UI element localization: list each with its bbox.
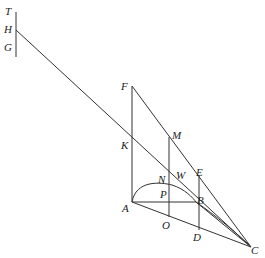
line-HC: [16, 30, 251, 247]
diagram-lines: [0, 0, 265, 258]
line-BC: [196, 202, 251, 247]
label-C: C: [251, 245, 258, 256]
line-FC: [132, 86, 251, 247]
label-D: D: [193, 232, 201, 243]
label-W: W: [176, 170, 185, 181]
label-H: H: [4, 24, 12, 35]
label-K: K: [121, 140, 128, 151]
label-F: F: [121, 81, 128, 92]
label-M: M: [172, 130, 181, 141]
label-B: B: [197, 195, 204, 206]
label-T: T: [5, 6, 11, 17]
label-O: O: [162, 220, 170, 231]
label-E: E: [196, 167, 203, 178]
label-P: P: [160, 189, 167, 200]
label-N: N: [158, 174, 165, 185]
line-AC: [132, 202, 251, 247]
geometry-diagram: T H G F K M E N W P A B O D C: [0, 0, 265, 258]
label-A: A: [122, 203, 129, 214]
label-G: G: [4, 42, 12, 53]
